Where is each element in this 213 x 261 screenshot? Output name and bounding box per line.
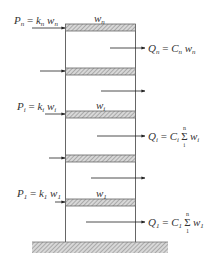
slab-i-minus-1 [66,155,136,162]
weight-label-n: wn [94,13,105,26]
slab-n-minus-1 [66,68,136,75]
applied-load-label-1: P1 = k1 w1 [17,188,61,201]
weight-label-i: wi [96,100,105,113]
weight-label-1: w1 [96,188,107,201]
applied-load-label-i: Pi = ki wi [17,101,56,114]
shear-label-n: Qn = Cn wn [148,43,196,56]
applied-load-label-n: Pn = kn wn [14,15,58,28]
shear-label-i: Qi = CinΣiwi [148,131,199,144]
summation-symbol: nΣi [180,131,189,142]
shear-label-1: Q1 = C1nΣ1w1 [148,217,204,230]
ground-hatch [32,242,168,253]
summation-symbol: nΣ1 [183,217,192,228]
